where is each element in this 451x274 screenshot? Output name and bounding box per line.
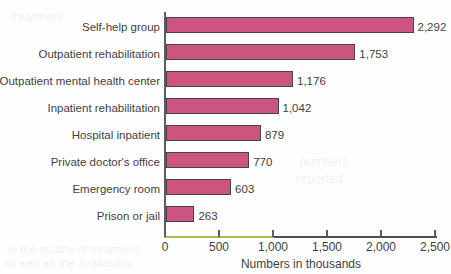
- bar-chart-figure: in the quality of treatment as well as t…: [0, 0, 451, 274]
- bar-outpatient-rehabilitation: [166, 44, 355, 60]
- bar-value-emergency-room: 603: [235, 183, 254, 195]
- bar-hospital-inpatient: [166, 125, 261, 141]
- x-tick-label-500: 500: [209, 241, 229, 254]
- x-tick-2000: [380, 230, 382, 237]
- bar-value-outpatient-mental-health-center: 1,176: [297, 75, 326, 87]
- bar-inpatient-rehabilitation: [166, 98, 279, 114]
- x-axis-title: Numbers in thousands: [165, 258, 437, 271]
- bar-value-hospital-inpatient: 879: [265, 129, 284, 141]
- bar-value-inpatient-rehabilitation: 1,042: [283, 102, 312, 114]
- category-label-private-doctors-office: Private doctor's office: [51, 156, 165, 168]
- category-label-outpatient-mental-health-center: Outpatient mental health center: [0, 75, 165, 87]
- x-tick-1500: [326, 230, 328, 237]
- x-tick-label-2000: 2,000: [366, 241, 396, 254]
- category-label-outpatient-rehabilitation: Outpatient rehabilitation: [39, 48, 165, 60]
- x-tick-2500: [434, 230, 436, 237]
- x-tick-label-0: 0: [162, 241, 169, 254]
- category-label-inpatient-rehabilitation: Inpatient rehabilitation: [47, 102, 165, 114]
- bar-emergency-room: [166, 179, 231, 195]
- bar-value-outpatient-rehabilitation: 1,753: [359, 48, 388, 60]
- category-label-emergency-room: Emergency room: [72, 183, 165, 195]
- x-axis-line-right-segment: [274, 236, 437, 238]
- category-label-self-help-group: Self-help group: [82, 21, 165, 33]
- bar-value-self-help-group: 2,292: [418, 21, 447, 33]
- x-tick-500: [218, 230, 220, 237]
- x-tick-label-2500: 2,500: [420, 241, 450, 254]
- bar-self-help-group: [166, 17, 414, 33]
- plot-area: Self-help group Outpatient rehabilitatio…: [0, 0, 451, 274]
- bar-outpatient-mental-health-center: [166, 71, 293, 87]
- bar-prison-or-jail: [166, 206, 194, 222]
- x-tick-label-1000: 1,000: [258, 241, 288, 254]
- x-tick-label-1500: 1,500: [312, 241, 342, 254]
- category-label-prison-or-jail: Prison or jail: [97, 210, 165, 222]
- bar-private-doctors-office: [166, 152, 249, 168]
- x-tick-0: [164, 230, 166, 237]
- category-label-hospital-inpatient: Hospital inpatient: [72, 129, 165, 141]
- bar-value-private-doctors-office: 770: [253, 156, 272, 168]
- x-tick-1000: [272, 230, 274, 237]
- bar-value-prison-or-jail: 263: [198, 210, 217, 222]
